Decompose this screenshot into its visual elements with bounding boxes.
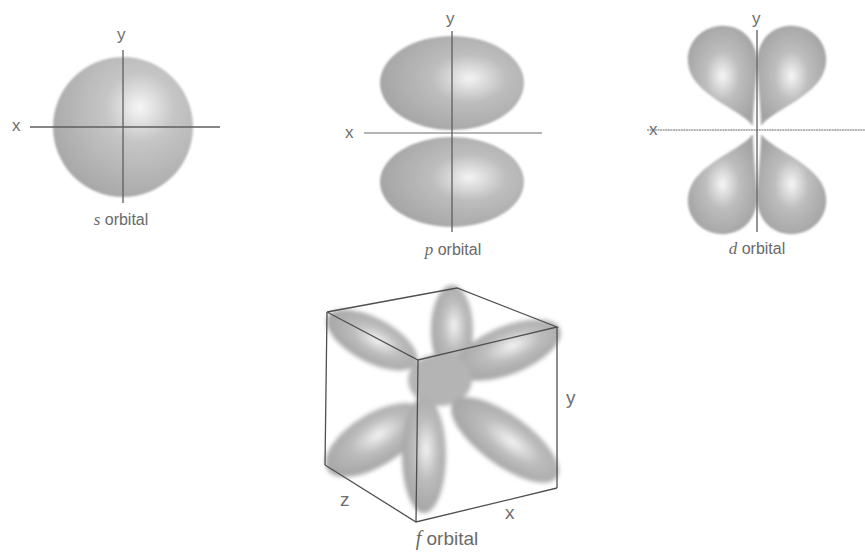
s-caption-letter: s xyxy=(94,210,101,229)
d-y-label: y xyxy=(752,10,761,27)
p-y-label: y xyxy=(446,10,455,27)
s-y-label: y xyxy=(117,26,126,43)
f-caption-text: orbital xyxy=(421,528,478,549)
f-lobe-upper-left xyxy=(318,297,427,383)
p-caption-letter: p xyxy=(425,240,434,259)
f-lobe-bottom xyxy=(402,397,446,513)
cube-left-edge xyxy=(325,312,327,465)
s-x-label: x xyxy=(12,117,21,134)
s-orbital-caption: s orbital xyxy=(94,211,149,228)
d-orbital-caption: d orbital xyxy=(729,240,786,257)
f-z-label: z xyxy=(340,490,350,509)
d-orbital-panel xyxy=(647,26,865,234)
d-lobe-lower-right xyxy=(757,134,826,234)
f-y-label: y xyxy=(566,388,576,407)
p-orbital-panel xyxy=(364,31,542,232)
s-orbital-panel xyxy=(30,50,220,203)
d-caption-text: orbital xyxy=(737,240,785,257)
d-lobe-upper-left xyxy=(688,26,757,126)
orbital-drawings xyxy=(0,0,865,553)
f-lobe-lower-right xyxy=(439,382,572,498)
d-lobe-lower-left xyxy=(688,134,757,234)
f-orbital-caption: f orbital xyxy=(416,528,479,548)
d-lobe-upper-right xyxy=(757,26,826,126)
f-orbital-panel xyxy=(314,285,572,522)
s-caption-text: orbital xyxy=(100,211,148,228)
p-orbital-caption: p orbital xyxy=(425,241,482,258)
d-x-label: x xyxy=(649,121,658,138)
orbital-diagram: y x s orbital y x p orbital y x d orbita… xyxy=(0,0,865,553)
d-caption-letter: d xyxy=(729,239,738,258)
p-x-label: x xyxy=(345,124,354,141)
f-x-label: x xyxy=(505,503,515,522)
p-caption-text: orbital xyxy=(433,241,481,258)
